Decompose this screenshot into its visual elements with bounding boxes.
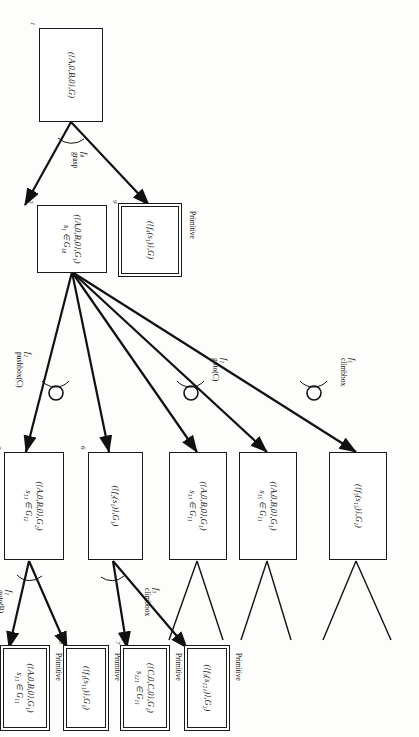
node-4-primitive-caption: Primitive [54, 653, 63, 681]
node-3-label: ({A,0,B,0},G₂) [34, 482, 44, 531]
node-13-label: ({f₅(s₁₅)},G₁) [353, 484, 363, 528]
edge-label-pushbox-op: pushbox(C) [15, 352, 24, 387]
node-7-label: ({C,0,C,0},G₁) [145, 663, 155, 713]
node-4[interactable]: ({A,0,B,0},G₁) s₁₁ ∈ G₁₁ [3, 648, 47, 728]
node-2-index: 2 [27, 200, 35, 204]
node-7[interactable]: ({C,0,C,0},G₁) s₁₂₁ ∈ G₁₁ [123, 648, 167, 728]
node-2[interactable]: ({A,0,B,0},G₁) s₁ ∈ G₁₄ [37, 205, 107, 273]
edge-label-pushbox-fn: f₂ [24, 352, 33, 357]
edge-label-gotob-op: goto(B) [0, 590, 5, 613]
node-5-primitive-caption: Primitive [113, 653, 122, 681]
node-9[interactable]: ({f₄(s₁)},G) [121, 206, 179, 274]
node-6-label: ({f₂(s₁)},G₁) [111, 486, 121, 527]
edge-label-climbbox-f3-fn: f₃ [152, 588, 161, 593]
edge-label-gotoc-op: goto(C) [211, 358, 220, 381]
node-7-sublabel: s₁₂₁ ∈ G₁₁ [135, 671, 144, 705]
node-1[interactable]: ({A,0,B,0},G) [39, 28, 103, 122]
node-8-index: 8 [178, 641, 186, 645]
edge-label-gotoc-fn: f₁ [220, 358, 229, 363]
edge-label-pushbox: f₂ pushbox(C) [15, 352, 33, 387]
edge-label-climbbox-f5-op: climbbox [339, 358, 348, 386]
node-9-label: ({f₄(s₁)},G) [145, 221, 155, 259]
node-5[interactable]: ({f₁(s₁₁)},G₁) [66, 648, 106, 728]
node-5-label: ({f₁(s₁₁)},G₁) [81, 666, 91, 710]
node-5-index: 5 [57, 641, 65, 645]
edge-label-grasp: f₄ grasp [71, 152, 89, 168]
node-12-label: ({A,0,B,0},G₁) [268, 482, 278, 531]
node-12-visible[interactable]: ({A,0,B,0},G₁) s₁₅ ∈ G₁₁ [239, 452, 297, 560]
node-4-index: 4 [0, 641, 1, 645]
node-1-index: 1 [29, 22, 37, 26]
node-10-sublabel: s₁₃ ∈ G₁₁ [188, 490, 197, 521]
node-1-label: ({A,0,B,0},G) [66, 52, 76, 98]
node-10[interactable]: ({A,0,B,0},G₁) s₁₃ ∈ G₁₁ [169, 452, 227, 560]
node-2-sublabel: s₁ ∈ G₁₄ [62, 225, 71, 253]
edge-label-climbbox-f3: f₃ climbbox [143, 588, 161, 616]
edge-label-grasp-op: grasp [71, 152, 80, 168]
node-3-index: 3 [0, 446, 3, 450]
node-2-label: ({A,0,B,0},G₁) [72, 215, 82, 264]
node-8[interactable]: ({f₃(s₁₂₁)},G₂) [187, 648, 227, 728]
node-12-sublabel: s₁₅ ∈ G₁₁ [258, 490, 267, 521]
node-3[interactable]: ({A,0,B,0},G₂) s₁₁ ∈ G₁₂ [4, 452, 64, 560]
node-10-label: ({A,0,B,0},G₁) [198, 482, 208, 531]
node-7-primitive-caption: Primitive [174, 653, 183, 681]
edge-label-gotob: f₁ goto(B) [0, 590, 14, 613]
edge-label-climbbox-f3-op: climbbox [143, 588, 152, 616]
edge-label-climbbox-f5: f₅ climbbox [339, 358, 357, 386]
node-6[interactable]: ({f₂(s₁)},G₁) [88, 452, 143, 560]
node-9-primitive-caption: Primitive [188, 211, 197, 239]
node-8-primitive-caption: Primitive [234, 653, 243, 681]
node-6-index: 6 [79, 446, 87, 450]
node-3-sublabel: s₁₁ ∈ G₁₂ [24, 490, 33, 521]
node-8-label: ({f₃(s₁₂₁)},G₂) [202, 665, 212, 712]
edge-label-gotoc: f₁ goto(C) [211, 358, 229, 381]
edge-label-climbbox-f5-fn: f₅ [348, 358, 357, 363]
edge-label-gotob-fn: f₁ [5, 590, 14, 595]
node-7-index: 7 [114, 641, 122, 645]
task-decomposition-tree: ({A,0,B,0},G) 1 ({A,0,B,0},G₁) s₁ ∈ G₁₄ … [0, 0, 419, 737]
node-4-label: ({A,0,B,0},G₁) [25, 664, 35, 713]
node-9-index: 9 [111, 200, 119, 204]
node-4-sublabel: s₁₁ ∈ G₁₁ [15, 672, 24, 703]
edge-label-grasp-fn: f₄ [80, 152, 89, 157]
node-13[interactable]: ({f₅(s₁₅)},G₁) [329, 452, 387, 560]
